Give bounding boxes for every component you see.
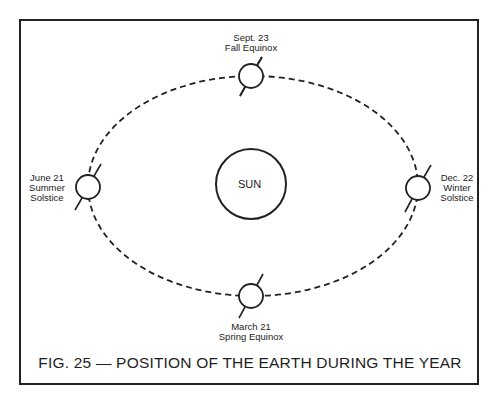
label-event: Fall Equinox [201,43,301,53]
earth-fall-equinox [239,57,263,96]
label-spring-equinox: March 21 Spring Equinox [201,322,301,342]
earth-winter-solstice [405,165,431,212]
sun-label: SUN [238,178,261,190]
earth-summer-solstice [75,164,101,210]
label-fall-equinox: Sept. 23 Fall Equinox [201,33,301,53]
figure-caption: FIG. 25 — POSITION OF THE EARTH DURING T… [19,354,481,372]
label-winter-solstice: Dec. 22 Winter Solstice [432,173,482,203]
label-event: Spring Equinox [201,332,301,342]
earth-spring-equinox [239,274,263,318]
label-summer-solstice: June 21 Summer Solstice [22,173,72,203]
label-event-2: Solstice [22,193,72,203]
label-event-2: Solstice [432,193,482,203]
